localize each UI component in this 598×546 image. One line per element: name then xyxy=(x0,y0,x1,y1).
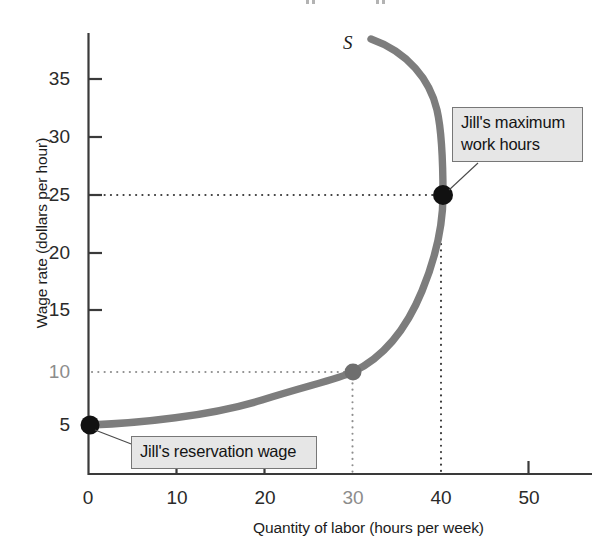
y-tick-label-10: 10 xyxy=(24,361,70,383)
x-tick-label-0: 0 xyxy=(65,487,111,509)
y-axis-ticks xyxy=(89,79,103,310)
callout-max-hours-line-2: work hours xyxy=(461,134,574,156)
reference-lines xyxy=(92,195,441,472)
x-tick-label-50: 50 xyxy=(506,487,552,509)
x-tick-label-10: 10 xyxy=(154,487,200,509)
x-axis-title: Quantity of labor (hours per week) xyxy=(253,519,484,537)
labor-supply-chart-figure: 35 30 25 20 15 10 5 0 10 20 30 40 50 Wag… xyxy=(0,0,598,546)
leader-line-max-hours xyxy=(449,163,478,190)
axis-lines xyxy=(89,33,593,475)
supply-curve-label: S xyxy=(343,32,353,54)
point-reservation-wage xyxy=(81,416,100,435)
y-tick-label-5: 5 xyxy=(24,414,70,436)
callout-reservation-wage: Jill's reservation wage xyxy=(131,436,317,469)
callout-max-hours-line-1: Jill's maximum xyxy=(461,112,574,134)
y-axis-title: Wage rate (dollars per hour) xyxy=(33,103,51,363)
supply-curve xyxy=(90,39,443,425)
point-wage-10-hours-30 xyxy=(345,364,362,381)
point-maximum-work-hours xyxy=(433,185,453,205)
x-tick-label-20: 20 xyxy=(242,487,288,509)
cropped-title-fragment xyxy=(306,0,385,4)
callout-maximum-work-hours: Jill's maximum work hours xyxy=(452,107,583,162)
y-tick-label-35: 35 xyxy=(24,68,70,90)
x-tick-label-40: 40 xyxy=(418,487,464,509)
callout-leader-lines xyxy=(95,163,478,452)
x-tick-label-30: 30 xyxy=(330,487,376,509)
